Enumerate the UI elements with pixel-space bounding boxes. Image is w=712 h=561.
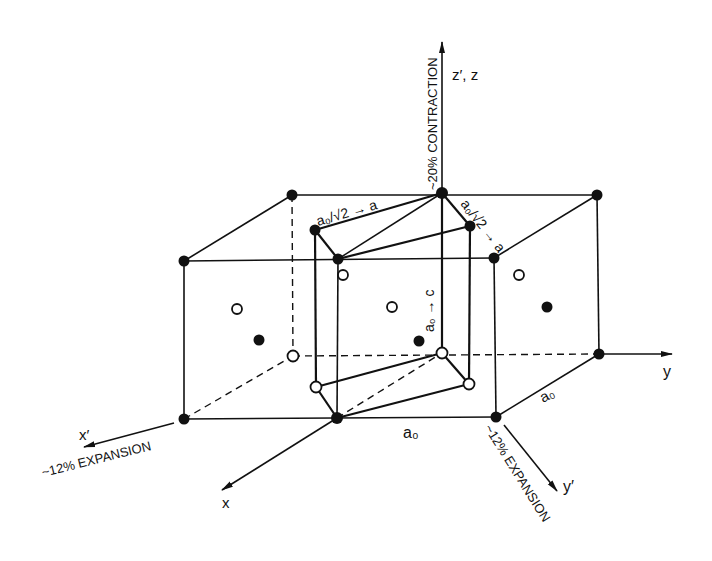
lattice-diagram: z′, z ~20% CONTRACTION y x x′ ~12% EXPAN… <box>0 0 712 561</box>
z-axis-label: z′, z <box>452 66 478 83</box>
edge-a0-side-label: a₀ <box>536 384 557 406</box>
open-atoms <box>232 270 524 393</box>
tet-a-label-1: a₀/√2 → a <box>314 196 379 229</box>
z-contraction-label: ~20% CONTRACTION <box>425 57 440 190</box>
x-axis-label: x <box>222 494 230 511</box>
edge-a0-front-label: a₀ <box>403 424 419 441</box>
x-axis <box>222 418 337 490</box>
y-axis-label: y <box>663 363 671 380</box>
y-prime-axis-label: y′ <box>563 478 574 495</box>
axes <box>84 42 672 491</box>
x-prime-axis-label: x′ <box>79 426 90 443</box>
tet-c-label: a₀ → c <box>421 290 437 332</box>
